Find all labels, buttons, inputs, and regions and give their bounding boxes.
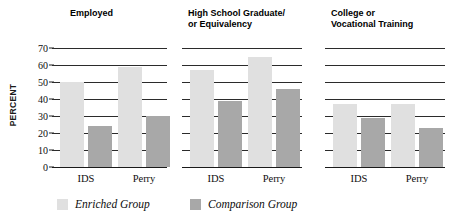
bar-enriched — [391, 104, 415, 167]
y-tick-label: 0 — [43, 162, 48, 173]
bar-enriched — [190, 70, 214, 167]
axis-baseline — [325, 167, 445, 168]
plot-area — [325, 48, 445, 167]
plot-area — [182, 48, 302, 167]
bar-enriched — [118, 67, 142, 167]
chart-panel: High School Graduate/ or EquivalencyIDSP… — [182, 0, 302, 224]
x-tick-label: IDS — [190, 173, 242, 184]
gridline — [325, 48, 445, 49]
y-axis-tick-labels: 010203040506070 — [26, 48, 48, 167]
gridline — [52, 65, 167, 66]
bar-comparison — [146, 116, 170, 167]
legend-item: Comparison Group — [190, 198, 297, 210]
y-tick-label: 20 — [38, 128, 48, 139]
y-tick-label: 70 — [38, 43, 48, 54]
gridline — [182, 48, 302, 49]
x-tick-label: Perry — [118, 173, 170, 184]
chart-panel: College or Vocational TrainingIDSPerry — [325, 0, 445, 224]
y-axis-title: PERCENT — [8, 70, 18, 140]
legend-swatch-enriched — [57, 199, 68, 210]
bar-comparison — [88, 126, 112, 167]
bar-comparison — [218, 101, 242, 167]
axis-baseline — [182, 167, 302, 168]
legend-label: Enriched Group — [75, 198, 150, 210]
bar-enriched — [333, 104, 357, 167]
legend-swatch-comparison — [190, 199, 201, 210]
y-tick-label: 40 — [38, 94, 48, 105]
bar-comparison — [361, 118, 385, 167]
bar-enriched — [60, 82, 84, 167]
y-tick-label: 30 — [38, 111, 48, 122]
plot-area — [52, 48, 167, 167]
axis-baseline — [52, 167, 167, 168]
x-tick-label: IDS — [333, 173, 385, 184]
chart-panel: EmployedIDSPerry — [52, 0, 167, 224]
y-tick-label: 60 — [38, 60, 48, 71]
bar-enriched — [248, 57, 272, 168]
gridline — [52, 48, 167, 49]
legend-label: Comparison Group — [208, 198, 297, 210]
bar-comparison — [419, 128, 443, 167]
gridline — [325, 65, 445, 66]
x-tick-label: IDS — [60, 173, 112, 184]
legend-item: Enriched Group — [57, 198, 150, 210]
bar-comparison — [276, 89, 300, 167]
panel-title: College or Vocational Training — [331, 8, 413, 30]
panel-title: Employed — [70, 8, 113, 19]
y-tick-label: 50 — [38, 77, 48, 88]
chart-legend: Enriched GroupComparison Group — [0, 198, 468, 218]
gridline — [325, 82, 445, 83]
gridline — [182, 65, 302, 66]
panel-title: High School Graduate/ or Equivalency — [188, 8, 285, 30]
y-tick-label: 10 — [38, 145, 48, 156]
grouped-bar-chart-figure: PERCENT 010203040506070 EmployedIDSPerry… — [0, 0, 468, 224]
gridline — [325, 99, 445, 100]
x-tick-label: Perry — [248, 173, 300, 184]
x-tick-label: Perry — [391, 173, 443, 184]
